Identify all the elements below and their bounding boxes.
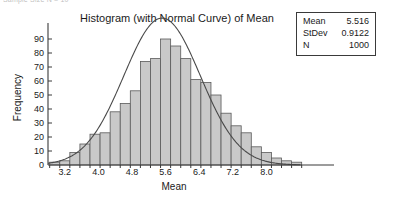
histogram-bar — [110, 112, 120, 165]
histogram-bars — [50, 39, 302, 165]
histogram-bar — [130, 91, 140, 165]
histogram-bar — [171, 46, 181, 165]
histogram-bar — [211, 95, 221, 165]
histogram-bar — [261, 152, 271, 165]
histogram-bar — [181, 59, 191, 165]
histogram-bar — [221, 113, 231, 165]
histogram-figure: Histogram (with Normal Curve) of Mean Me… — [0, 0, 401, 199]
histogram-bar — [150, 59, 160, 165]
histogram-bar — [161, 39, 171, 165]
histogram-bar — [100, 133, 110, 165]
histogram-bar — [120, 103, 130, 165]
histogram-bar — [60, 161, 70, 165]
histogram-bar — [140, 61, 150, 165]
histogram-bar — [80, 144, 90, 165]
histogram-bar — [191, 80, 201, 165]
plot-area — [0, 0, 401, 199]
histogram-bar — [201, 82, 211, 165]
